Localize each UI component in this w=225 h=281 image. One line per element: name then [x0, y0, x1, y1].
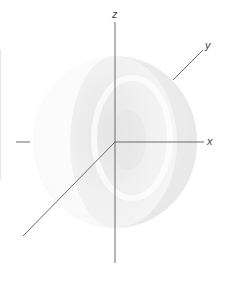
z-axis-label: z	[112, 9, 118, 20]
x-axis-label: x	[207, 136, 213, 147]
sphere-diagram	[0, 0, 225, 281]
diagram-canvas: z y x	[0, 0, 225, 281]
y-axis-positive	[173, 50, 203, 80]
y-axis-label: y	[205, 40, 211, 51]
